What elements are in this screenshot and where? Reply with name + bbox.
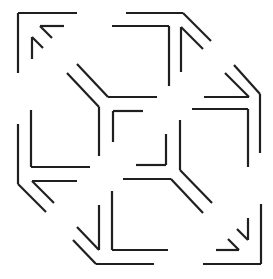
background [0,0,273,279]
line-illusion-diagram [0,0,273,279]
